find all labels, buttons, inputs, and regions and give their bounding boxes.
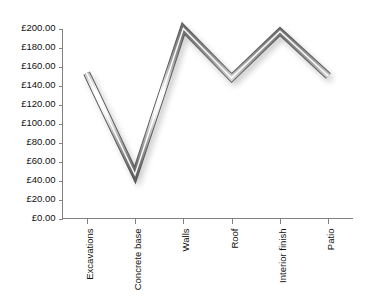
x-axis-tick-label: Patio [325,229,336,251]
y-axis-tick-label: £200.00 [21,22,55,33]
y-axis-tick-label: £180.00 [21,41,55,52]
x-axis-tick-label: Interior finish [277,229,288,283]
line-chart: £200.00£180.00£160.00£140.00£120.00£100.… [0,0,369,306]
x-axis-tick-marks [88,219,329,224]
data-series-cost [87,29,329,175]
y-axis-tick-label: £160.00 [21,60,55,71]
series-line-bevel [87,29,329,175]
y-axis-tick-label: £140.00 [21,79,55,90]
chart-canvas: £200.00£180.00£160.00£140.00£120.00£100.… [0,0,369,306]
y-axis-tick-label: £100.00 [21,117,55,128]
y-axis-tick-label: £60.00 [26,155,55,166]
y-axis-tick-label: £120.00 [21,98,55,109]
x-axis-tick-label: Concrete base [132,229,143,291]
x-axis-tick-label: Roof [229,228,240,248]
y-axis-tick-label: £0.00 [32,212,56,223]
x-axis-tick-labels: ExcavationsConcrete baseWallsRoofInterio… [84,228,337,290]
y-axis-tick-labels: £200.00£180.00£160.00£140.00£120.00£100.… [21,22,55,223]
plot-area: £200.00£180.00£160.00£140.00£120.00£100.… [21,22,352,290]
y-axis-tick-label: £20.00 [26,193,55,204]
y-axis-tick-label: £40.00 [26,174,55,185]
x-axis-tick-label: Walls [180,228,191,251]
y-axis-tick-marks [59,30,63,220]
y-axis-tick-label: £80.00 [26,136,55,147]
x-axis-tick-label: Excavations [84,228,95,279]
